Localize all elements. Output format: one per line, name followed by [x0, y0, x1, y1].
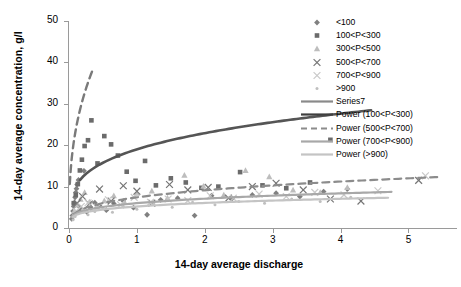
chart-legend: <100100<P<300300<P<500500<P<700700<P<900… — [300, 16, 413, 161]
x-tick-label: 5 — [393, 234, 423, 245]
legend-item[interactable]: 300<P<500 — [300, 42, 413, 55]
data-point — [181, 172, 187, 178]
data-point — [169, 176, 174, 181]
data-point — [109, 142, 114, 147]
legend-label: Power (100<P<300) — [334, 108, 413, 121]
legend-label: Power (700<P<900) — [334, 135, 413, 148]
legend-marker-icon — [300, 69, 334, 82]
legend-marker-icon — [300, 82, 334, 95]
trendline — [70, 68, 94, 184]
data-point — [183, 180, 188, 185]
data-point — [72, 218, 75, 221]
data-point — [192, 213, 198, 219]
data-point — [102, 134, 107, 139]
x-tick-label: 3 — [258, 234, 288, 245]
legend-label: 700<P<900 — [334, 69, 380, 82]
legend-line-swatch — [300, 95, 334, 108]
legend-label: Power (>900) — [334, 148, 388, 161]
legend-label: Series7 — [334, 95, 365, 108]
data-point — [213, 203, 216, 206]
y-tick-label: 30 — [0, 97, 58, 108]
legend-label: >900 — [334, 82, 355, 95]
x-tick — [205, 228, 206, 233]
data-point — [344, 184, 350, 190]
legend-label: Power (500<P<700) — [334, 122, 413, 135]
x-tick-label: 4 — [326, 234, 356, 245]
x-tick — [273, 228, 274, 233]
data-point — [82, 144, 87, 149]
data-point — [76, 182, 81, 187]
data-point — [120, 182, 127, 189]
legend-item[interactable]: Power (>900) — [300, 148, 413, 161]
data-point — [143, 159, 148, 164]
data-point — [124, 169, 129, 174]
data-point — [73, 193, 78, 198]
y-tick-label: 50 — [0, 14, 58, 25]
legend-line-swatch — [300, 148, 334, 161]
x-tick-label: 0 — [54, 234, 84, 245]
legend-label: 500<P<700 — [334, 56, 380, 69]
y-tick-label: 10 — [0, 180, 58, 191]
data-point — [300, 187, 307, 194]
x-axis-line — [69, 228, 457, 229]
data-point — [149, 188, 155, 194]
data-point — [78, 168, 83, 173]
data-point — [89, 118, 94, 123]
data-point — [242, 167, 248, 173]
legend-label: <100 — [334, 16, 355, 29]
legend-line-swatch — [300, 122, 334, 135]
legend-item[interactable]: Power (700<P<900) — [300, 135, 413, 148]
x-tick-label: 1 — [122, 234, 152, 245]
y-axis-title: 14-day average concentration, g/l — [12, 6, 24, 226]
legend-marker-icon — [300, 56, 334, 69]
data-point — [166, 181, 173, 188]
legend-item[interactable]: 100<P<300 — [300, 29, 413, 42]
y-tick-label: 40 — [0, 55, 58, 66]
data-point — [111, 211, 114, 214]
legend-marker-icon — [300, 42, 334, 55]
legend-item[interactable]: Power (500<P<700) — [300, 122, 413, 135]
x-tick-label: 2 — [190, 234, 220, 245]
data-point — [144, 212, 150, 218]
x-tick — [408, 228, 409, 233]
data-point — [319, 200, 322, 203]
legend-item[interactable]: 700<P<900 — [300, 69, 413, 82]
data-point — [284, 186, 289, 191]
data-point — [263, 202, 266, 205]
legend-item[interactable]: Series7 — [300, 95, 413, 108]
data-point — [87, 213, 90, 216]
data-point — [171, 206, 174, 209]
data-point — [135, 208, 138, 211]
data-point — [266, 174, 272, 180]
x-tick — [137, 228, 138, 233]
legend-label: 100<P<300 — [334, 29, 380, 42]
y-tick-label: 20 — [0, 138, 58, 149]
data-point — [111, 193, 117, 199]
legend-item[interactable]: >900 — [300, 82, 413, 95]
data-point — [96, 186, 103, 193]
data-point — [154, 183, 159, 188]
legend-label: 300<P<500 — [334, 42, 380, 55]
x-axis-title: 14-day average discharge — [69, 258, 409, 270]
data-point — [238, 170, 243, 175]
scatter-chart: 14-day average concentration, g/l 010203… — [0, 0, 461, 287]
legend-marker-icon — [300, 16, 334, 29]
legend-line-swatch — [300, 108, 334, 121]
x-tick — [69, 228, 70, 233]
x-tick — [341, 228, 342, 233]
data-point — [133, 179, 138, 184]
legend-item[interactable]: Power (100<P<300) — [300, 108, 413, 121]
data-point — [290, 187, 296, 193]
legend-line-swatch — [300, 135, 334, 148]
data-point — [80, 157, 85, 162]
y-tick-label: 0 — [0, 221, 58, 232]
legend-item[interactable]: 500<P<700 — [300, 56, 413, 69]
data-point — [86, 138, 91, 143]
legend-marker-icon — [300, 29, 334, 42]
legend-item[interactable]: <100 — [300, 16, 413, 29]
